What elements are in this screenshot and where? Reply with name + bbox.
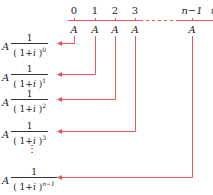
arrowhead-3 (57, 129, 62, 134)
formula-denominator: ( 1+i )n−1 (11, 177, 57, 193)
formula-numerator: 1 (25, 121, 35, 131)
formula-coefficient: A (2, 41, 9, 52)
connector-n-minus-1 (60, 36, 193, 178)
formula-fraction: 1 ( 1+i )0 (11, 33, 48, 59)
formula-numerator: 1 (25, 64, 35, 74)
present-value-formula-1: A 1 ( 1+i )1 (2, 64, 48, 90)
present-value-formula-n-minus-1: A 1 ( 1+i )n−1 (2, 167, 57, 193)
tick-label-n-minus-1: n−1 (181, 6, 202, 16)
formula-denominator: ( 1+i )1 (11, 74, 48, 90)
formula-fraction: 1 ( 1+i )n−1 (11, 167, 57, 193)
formula-denominator: ( 1+i )2 (11, 99, 48, 115)
arrowhead-1 (57, 72, 62, 77)
present-value-formula-0: A 1 ( 1+i )0 (2, 33, 48, 59)
connector-1 (60, 36, 96, 75)
connector-3 (60, 36, 136, 132)
formula-exponent: 1 (42, 77, 46, 84)
tick-label-3: 3 (132, 6, 138, 16)
present-value-formula-3: A 1 ( 1+i )3 (2, 121, 48, 147)
connector-0 (60, 36, 75, 44)
tick-label-0: 0 (71, 6, 77, 16)
formula-denominator: ( 1+i )0 (11, 43, 48, 59)
formula-fraction: 1 ( 1+i )1 (11, 64, 48, 90)
formula-coefficient: A (2, 129, 9, 140)
formula-coefficient: A (2, 72, 9, 83)
formula-coefficient: A (2, 175, 9, 186)
tick-label-n: n (211, 6, 213, 16)
payment-label-3: A (131, 25, 138, 35)
arrowhead-n-minus-1 (57, 175, 62, 180)
formula-numerator: 1 (29, 167, 39, 177)
formula-exponent: n−1 (42, 180, 55, 187)
tick-label-2: 2 (112, 6, 118, 16)
formula-exponent: 3 (42, 134, 46, 141)
payment-label-0: A (70, 25, 77, 35)
tick-label-1: 1 (92, 6, 98, 16)
formula-numerator: 1 (25, 89, 35, 99)
arrowhead-2 (57, 97, 62, 102)
formula-numerator: 1 (25, 33, 35, 43)
payment-label-2: A (111, 25, 118, 35)
formula-exponent: 2 (42, 102, 46, 109)
formula-fraction: 1 ( 1+i )2 (11, 89, 48, 115)
payment-label-1: A (91, 25, 98, 35)
connector-2 (60, 36, 116, 100)
payment-label-n-minus-1: A (188, 25, 195, 35)
arrowhead-0 (57, 41, 62, 46)
vertical-ellipsis: ⋮ (27, 147, 33, 151)
formula-coefficient: A (2, 97, 9, 108)
formula-exponent: 0 (42, 46, 46, 53)
present-value-formula-2: A 1 ( 1+i )2 (2, 89, 48, 115)
